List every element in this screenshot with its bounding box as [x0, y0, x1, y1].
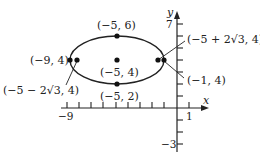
y-axis — [174, 11, 183, 152]
point-right-vertex — [161, 57, 166, 62]
point-bottom-vertex — [114, 81, 119, 86]
x-axis-label: x — [203, 94, 210, 107]
y-axis-label: y — [166, 6, 174, 19]
label-bottom-vertex: (−5, 2) — [100, 90, 139, 103]
x-tick-label-1: 1 — [186, 110, 193, 122]
ellipse-diagram: (−5, 6) (−5, 4) (−5, 2) (−9, 4) (−5 − 2√… — [0, 0, 260, 159]
point-top-vertex — [114, 33, 119, 38]
x-tick-label-neg9: −9 — [58, 110, 73, 122]
y-tick-label-7: 7 — [166, 18, 173, 30]
label-right-vertex: (−1, 4) — [187, 74, 226, 87]
label-right-focus: (−5 + 2√3, 4) — [187, 33, 260, 46]
point-left-focus — [74, 57, 79, 62]
label-top-vertex: (−5, 6) — [97, 19, 136, 32]
y-tick-label-neg3: −3 — [161, 138, 176, 150]
point-center — [114, 57, 119, 62]
label-center: (−5, 4) — [100, 66, 139, 79]
point-right-focus — [155, 57, 160, 62]
label-left-vertex: (−9, 4) — [30, 54, 69, 67]
label-left-focus: (−5 − 2√3, 4) — [3, 84, 79, 97]
